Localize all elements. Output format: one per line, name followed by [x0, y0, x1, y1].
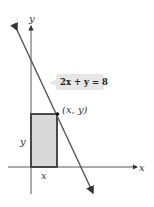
point-xy [56, 112, 60, 116]
rect-height-label: y [19, 136, 26, 147]
point-label: (x, y) [62, 104, 88, 115]
rect-width-label: x [41, 170, 47, 181]
equation-label: 2x + y = 8 [60, 77, 108, 87]
shaded-rectangle [31, 114, 57, 167]
diagram-canvas: 2x + y = 8 (x, y) y x y x [0, 0, 154, 207]
x-axis-label: x [139, 162, 145, 173]
y-axis-label: y [28, 13, 35, 24]
